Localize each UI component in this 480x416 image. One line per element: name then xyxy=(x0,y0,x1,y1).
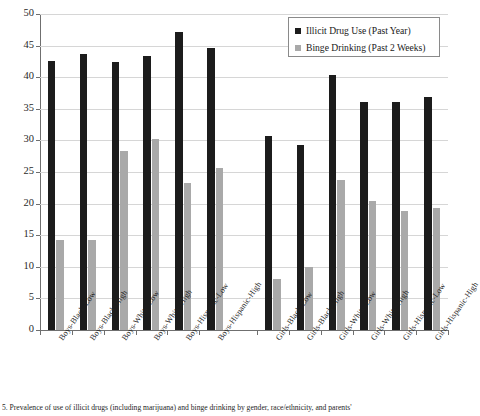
bar-girls-hispanic-high-binge-drinking xyxy=(433,208,441,330)
bar-boys-black-high-illicit-drug-use xyxy=(80,54,88,330)
square-swatch-grey-icon xyxy=(295,45,301,51)
x-tick-mark xyxy=(321,330,322,335)
bar-boys-black-high-binge-drinking xyxy=(88,240,96,330)
x-tick-mark xyxy=(416,330,417,335)
bar-boys-hispanic-low-illicit-drug-use xyxy=(175,32,183,330)
bar-boys-black-low-binge-drinking xyxy=(56,240,64,330)
x-tick-mark xyxy=(199,330,200,335)
x-tick-mark xyxy=(353,330,354,335)
x-tick-mark xyxy=(167,330,168,335)
y-tick-label: 5 xyxy=(4,292,34,302)
legend-item-binge-drinking: Binge Drinking (Past 2 Weeks) xyxy=(295,40,434,56)
plot-bars-layer xyxy=(40,14,448,330)
x-tick-mark xyxy=(72,330,73,335)
x-tick-mark xyxy=(448,330,449,335)
bar-boys-hispanic-high-illicit-drug-use xyxy=(207,48,215,330)
y-tick-label: 30 xyxy=(4,134,34,144)
x-tick-mark xyxy=(40,330,41,335)
legend-label-illicit-drug-use: Illicit Drug Use (Past Year) xyxy=(306,26,411,36)
bar-boys-white-low-illicit-drug-use xyxy=(112,62,120,330)
square-swatch-dark-icon xyxy=(295,28,301,34)
bar-girls-black-low-illicit-drug-use xyxy=(265,136,273,330)
bar-boys-black-low-illicit-drug-use xyxy=(48,61,56,330)
x-tick-mark xyxy=(289,330,290,335)
y-tick-label: 10 xyxy=(4,261,34,271)
x-tick-mark xyxy=(384,330,385,335)
y-tick-label: 50 xyxy=(4,8,34,18)
bar-girls-hispanic-low-binge-drinking xyxy=(401,211,409,330)
y-tick-label: 25 xyxy=(4,166,34,176)
bar-girls-white-high-binge-drinking xyxy=(369,201,377,330)
x-tick-mark xyxy=(104,330,105,335)
y-tick-label: 0 xyxy=(4,324,34,334)
legend-label-binge-drinking: Binge Drinking (Past 2 Weeks) xyxy=(306,43,426,53)
bar-girls-white-low-binge-drinking xyxy=(337,180,345,330)
bar-boys-hispanic-low-binge-drinking xyxy=(184,183,192,330)
x-tick-mark xyxy=(257,330,258,335)
y-tick-label: 40 xyxy=(4,71,34,81)
legend-item-illicit-drug-use: Illicit Drug Use (Past Year) xyxy=(295,23,434,39)
chart-legend: Illicit Drug Use (Past Year) Binge Drink… xyxy=(288,17,440,57)
bar-boys-white-high-illicit-drug-use xyxy=(143,56,151,330)
y-tick-label: 35 xyxy=(4,103,34,113)
y-tick-label: 20 xyxy=(4,198,34,208)
x-tick-mark xyxy=(136,330,137,335)
y-tick-label: 15 xyxy=(4,229,34,239)
figure-caption: 5. Prevalence of use of illicit drugs (i… xyxy=(2,403,456,413)
bar-girls-black-low-binge-drinking xyxy=(273,279,281,330)
y-tick-label: 45 xyxy=(4,40,34,50)
